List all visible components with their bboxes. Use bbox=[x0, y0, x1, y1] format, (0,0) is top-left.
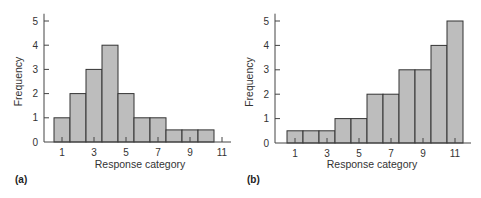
histogram-bar bbox=[335, 119, 351, 143]
panel-label: (a) bbox=[15, 174, 27, 185]
y-tick-label: 3 bbox=[263, 64, 269, 75]
histogram-panel-a: 0123451357911Response categoryFrequency(… bbox=[12, 14, 231, 185]
x-axis-title: Response category bbox=[327, 158, 418, 170]
histogram-bar bbox=[198, 130, 214, 142]
x-tick-label: 11 bbox=[217, 147, 228, 158]
x-tick-label: 7 bbox=[155, 147, 161, 158]
x-tick-label: 11 bbox=[450, 148, 461, 159]
y-tick-label: 2 bbox=[263, 89, 269, 100]
histogram-bar bbox=[118, 94, 134, 142]
y-tick-label: 3 bbox=[32, 64, 38, 75]
x-tick-label: 9 bbox=[420, 148, 426, 159]
histogram-bar bbox=[70, 94, 86, 142]
x-axis-title: Response category bbox=[95, 158, 186, 170]
histogram-figure: 0123451357911Response categoryFrequency(… bbox=[0, 0, 481, 198]
panel-label: (b) bbox=[247, 174, 260, 185]
histogram-bar bbox=[383, 94, 399, 143]
y-axis-title: Frequency bbox=[243, 56, 255, 106]
histogram-bar bbox=[166, 130, 182, 142]
y-tick-label: 1 bbox=[32, 112, 38, 123]
histogram-bar bbox=[431, 45, 447, 143]
histogram-bar bbox=[86, 69, 102, 142]
y-tick-label: 0 bbox=[263, 138, 269, 149]
y-tick-label: 0 bbox=[32, 137, 38, 148]
histogram-panel-b: 0123451357911Response categoryFrequency(… bbox=[243, 14, 471, 185]
histogram-bar bbox=[447, 21, 463, 143]
histogram-bar bbox=[134, 118, 150, 142]
y-axis-title: Frequency bbox=[12, 56, 24, 106]
histogram-bar bbox=[102, 45, 118, 142]
x-tick-label: 5 bbox=[123, 147, 129, 158]
histogram-bar bbox=[303, 131, 319, 143]
y-tick-label: 1 bbox=[263, 113, 269, 124]
histogram-bar bbox=[399, 70, 415, 143]
y-tick-label: 5 bbox=[32, 16, 38, 27]
x-tick-label: 3 bbox=[91, 147, 97, 158]
y-tick-label: 2 bbox=[32, 88, 38, 99]
histogram-bar bbox=[367, 94, 383, 143]
y-tick-label: 5 bbox=[263, 16, 269, 27]
histogram-bar bbox=[415, 70, 431, 143]
y-tick-label: 4 bbox=[263, 40, 269, 51]
y-tick-label: 4 bbox=[32, 40, 38, 51]
x-tick-label: 1 bbox=[59, 147, 65, 158]
x-tick-label: 9 bbox=[187, 147, 193, 158]
x-tick-label: 1 bbox=[292, 148, 298, 159]
